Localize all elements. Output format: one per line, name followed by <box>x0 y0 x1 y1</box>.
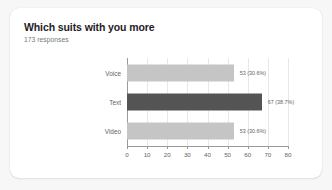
bar-voice[interactable] <box>127 64 234 81</box>
bar-text[interactable] <box>127 93 262 110</box>
value-label-video: 53 (30.6%) <box>240 128 266 134</box>
response-count-label: 173 responses <box>24 36 69 43</box>
bar-video[interactable] <box>127 123 234 140</box>
category-label-video: Video <box>105 128 121 135</box>
survey-result-card: Which suits with you more 173 responses … <box>10 8 322 178</box>
page-title: Which suits with you more <box>24 21 155 33</box>
bar-row: Text67 (38.7%) <box>127 87 288 116</box>
page-background: Which suits with you more 173 responses … <box>0 0 332 190</box>
value-label-text: 67 (38.7%) <box>268 99 294 105</box>
x-axis-tick-mark <box>268 146 269 149</box>
value-label-voice: 53 (30.6%) <box>240 70 266 76</box>
x-axis-tick-mark <box>208 146 209 149</box>
x-axis-tick-label: 50 <box>224 151 231 158</box>
x-axis-tick-label: 30 <box>184 151 191 158</box>
x-axis-tick-label: 80 <box>285 151 292 158</box>
x-axis-tick-mark <box>288 146 289 149</box>
bar-row: Voice53 (30.6%) <box>127 58 288 87</box>
x-axis-tick-mark <box>127 146 128 149</box>
x-axis-tick-mark <box>187 146 188 149</box>
bar-chart-plot-area: Voice53 (30.6%)Text67 (38.7%)Video53 (30… <box>127 58 288 146</box>
x-axis-tick-label: 70 <box>264 151 271 158</box>
x-axis-tick-label: 60 <box>244 151 251 158</box>
x-axis-tick-mark <box>228 146 229 149</box>
x-axis-tick-label: 20 <box>164 151 171 158</box>
x-axis-tick-mark <box>248 146 249 149</box>
x-axis-tick-label: 40 <box>204 151 211 158</box>
bar-row: Video53 (30.6%) <box>127 117 288 146</box>
x-axis-tick-mark <box>147 146 148 149</box>
category-label-voice: Voice <box>105 69 121 76</box>
x-axis-tick-label: 10 <box>144 151 151 158</box>
x-axis-tick-mark <box>167 146 168 149</box>
category-label-text: Text <box>109 98 121 105</box>
x-axis-tick-label: 0 <box>125 151 128 158</box>
